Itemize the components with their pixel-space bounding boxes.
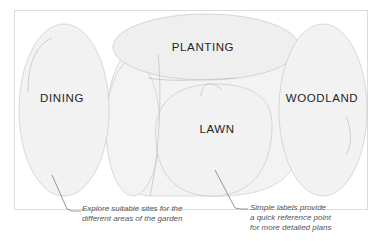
annotation-simple-line-3: for more detailed plans [250, 223, 331, 233]
annotation-simple-line-1: Simple labels provide [250, 203, 331, 213]
garden-zoning-diagram: DINING PLANTING LAWN WOODLAND Explore su… [0, 0, 383, 241]
annotation-simple: Simple labels provide a quick reference … [250, 203, 331, 233]
annotation-explore-line-2: different areas of the garden [82, 214, 183, 224]
lawn-zone-shape [156, 84, 272, 196]
path-zone-shape [106, 60, 160, 196]
annotation-explore-line-1: Explore suitable sites for the [82, 204, 183, 214]
annotation-explore: Explore suitable sites for the different… [82, 204, 183, 224]
woodland-zone-shape [279, 24, 367, 196]
zone-label-lawn: LAWN [199, 123, 234, 135]
dining-zone-shape [19, 24, 109, 196]
annotation-simple-line-2: a quick reference point [250, 213, 331, 223]
zone-label-dining: DINING [40, 92, 84, 104]
zone-label-woodland: WOODLAND [286, 92, 359, 104]
zone-label-planting: PLANTING [172, 41, 234, 53]
